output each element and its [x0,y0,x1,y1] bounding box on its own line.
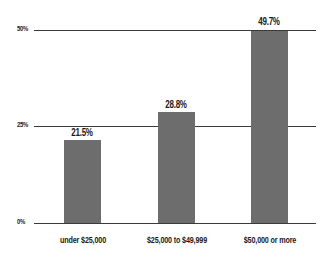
bar-chart: 50% 25% 0% 21.5% 28.8% 49.7% under $25,0… [0,0,336,261]
category-label-2: $25,000 to $49,999 [133,235,221,245]
value-label-2: 28.8% [152,99,200,110]
bar-under-25000 [64,140,101,223]
category-label-1: under $25,000 [39,235,127,245]
category-label-3: $50,000 or more [226,235,314,245]
value-label-3: 49.7% [245,16,293,27]
bar-25000-to-49999 [158,112,195,223]
gridline-0 [34,223,316,224]
bar-50000-or-more [251,31,288,223]
ytick-0: 0% [17,218,25,225]
ytick-25: 25% [17,121,28,128]
value-label-1: 21.5% [58,127,106,138]
ytick-50: 50% [17,25,28,32]
